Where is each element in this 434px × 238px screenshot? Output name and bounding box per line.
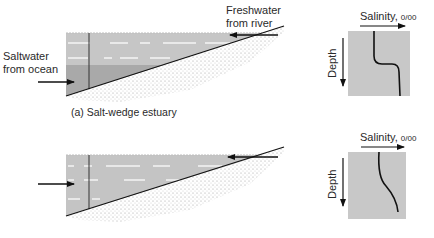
panel-a-estuary-diagram (38, 26, 284, 102)
depth-axis-label-a: Depth (326, 49, 339, 78)
salinity-label-text-b: Salinity, (360, 131, 401, 143)
salinity-axis-label-a: Salinity, 0/00 (360, 10, 416, 24)
freshwater-label-line1: Freshwater (226, 4, 281, 17)
salinity-unit-b: 0/00 (401, 134, 417, 143)
saltwater-label-a: Saltwater from ocean (3, 50, 58, 76)
depth-axis-label-b: Depth (326, 170, 339, 199)
salinity-profile-a (343, 26, 410, 96)
salinity-unit-a: 0/00 (401, 13, 417, 22)
panel-b-estuary-diagram (38, 147, 284, 222)
freshwater-label-line2: from river (226, 17, 281, 30)
saltwater-label-line1: Saltwater (3, 50, 58, 63)
saltwater-label-line2: from ocean (3, 63, 58, 76)
salinity-axis-label-b: Salinity, 0/00 (360, 131, 416, 145)
freshwater-label-a: Freshwater from river (226, 4, 281, 30)
salinity-profile-b (343, 147, 406, 219)
panel-a-caption: (a) Salt-wedge estuary (71, 106, 177, 119)
salinity-label-text-a: Salinity, (360, 10, 401, 22)
